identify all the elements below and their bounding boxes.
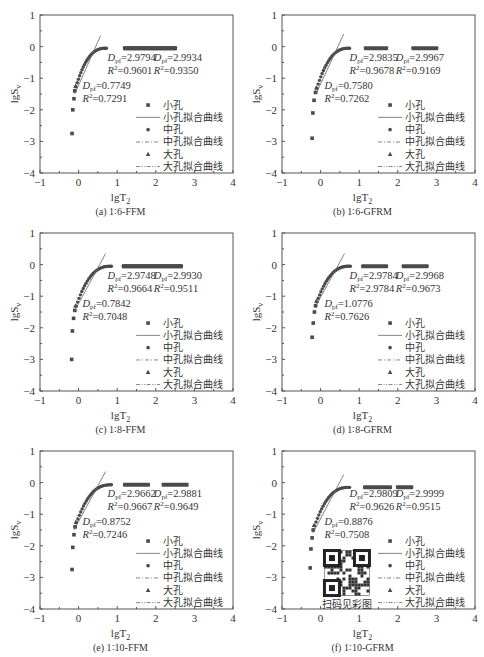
small-pore-marker <box>71 329 75 333</box>
legend-label: 小孔 <box>163 100 183 111</box>
panel-caption: (e) 1∶10-FFM <box>93 642 148 654</box>
small-pore-marker <box>72 533 76 537</box>
legend-label: 小孔拟合曲线 <box>163 111 223 123</box>
legend-circle-icon <box>146 564 150 568</box>
legend-square-icon <box>146 321 150 325</box>
x-tick-label: 0 <box>318 612 324 624</box>
legend-label: 中孔 <box>163 341 183 353</box>
legend-label: 大孔拟合曲线 <box>163 596 223 608</box>
legend-label: 小孔 <box>405 100 425 111</box>
medium-pore-marker <box>79 293 82 296</box>
medium-pore-marker <box>110 264 113 267</box>
medium-pore-plateau <box>364 46 388 50</box>
legend-label: 中孔拟合曲线 <box>405 353 465 365</box>
y-tick-label: −3 <box>265 353 277 365</box>
legend-triangle-icon <box>146 588 151 592</box>
legend-label: 中孔拟合曲线 <box>163 353 223 365</box>
x-tick-label: 2 <box>153 612 159 624</box>
x-tick-label: 1 <box>114 394 120 406</box>
medium-pore-marker <box>348 46 351 49</box>
small-pore-marker <box>71 108 75 112</box>
x-tick-label: 0 <box>76 394 82 406</box>
legend-label: 大孔 <box>405 366 425 378</box>
x-tick-label: 0 <box>76 176 82 188</box>
medium-pore-marker <box>75 81 78 84</box>
legend-circle-icon <box>146 346 150 350</box>
legend-label: 中孔拟合曲线 <box>405 571 465 583</box>
x-tick-label: 0 <box>76 612 82 624</box>
x-tick-label: 4 <box>472 394 478 406</box>
legend-label: 小孔拟合曲线 <box>405 111 465 123</box>
legend-label: 中孔 <box>163 559 183 571</box>
large-pore-plateau <box>123 46 177 50</box>
large-pore-annotation-r2: R2=0.9511 <box>153 282 198 294</box>
medium-pore-marker <box>349 264 352 267</box>
legend-label: 小孔拟合曲线 <box>405 547 465 559</box>
x-tick-label: 4 <box>230 612 236 624</box>
y-tick-label: 1 <box>272 9 278 21</box>
y-tick-label: −2 <box>23 322 35 334</box>
plot-frame <box>40 15 233 173</box>
small-pore-marker <box>70 132 74 136</box>
medium-pore-marker <box>77 297 80 300</box>
large-pore-plateau <box>402 264 429 268</box>
small-pore-marker <box>311 321 315 325</box>
y-tick-label: −4 <box>23 603 35 615</box>
x-tick-label: 4 <box>472 176 478 188</box>
x-axis-label: lgT2 <box>111 409 130 424</box>
x-tick-label: 4 <box>230 176 236 188</box>
small-pore-annotation-r2: R2=0.7291 <box>81 92 127 104</box>
x-tick-label: 2 <box>153 394 159 406</box>
medium-pore-annotation-r2: R2=0.9667 <box>107 500 153 512</box>
legend-label: 小孔拟合曲线 <box>163 547 223 559</box>
x-axis-label: lgT2 <box>111 627 130 642</box>
small-pore-marker <box>312 99 316 103</box>
y-tick-label: −2 <box>265 322 277 334</box>
plot-frame <box>282 233 475 391</box>
legend-square-icon <box>388 321 392 325</box>
y-tick-label: −3 <box>265 571 277 583</box>
x-tick-label: 3 <box>192 612 198 624</box>
x-tick-label: 3 <box>192 394 198 406</box>
legend-label: 大孔拟合曲线 <box>405 596 465 608</box>
medium-pore-marker <box>79 510 82 513</box>
medium-pore-marker <box>316 82 319 85</box>
medium-pore-annotation-r2: R2=0.9626 <box>349 500 395 512</box>
chart-svg: −10123410−1−2−3−4lgT2lgSv(f) 1∶10-GFRMDp… <box>242 436 484 655</box>
x-tick-label: 2 <box>395 176 401 188</box>
qr-code[interactable] <box>324 551 369 596</box>
legend-triangle-icon <box>388 370 393 374</box>
x-tick-label: 2 <box>153 176 159 188</box>
medium-pore-marker <box>318 79 321 82</box>
x-tick-label: 1 <box>114 176 120 188</box>
y-tick-label: −4 <box>265 603 277 615</box>
y-tick-label: −1 <box>265 72 277 84</box>
y-axis-label: lgSv <box>250 85 265 104</box>
panel-caption: (d) 1∶8-GFRM <box>333 424 392 436</box>
x-tick-label: 0 <box>318 394 324 406</box>
y-tick-label: −4 <box>23 167 35 179</box>
x-axis-label: lgT2 <box>111 191 130 206</box>
medium-pore-marker <box>77 77 80 80</box>
legend-label: 大孔拟合曲线 <box>405 378 465 390</box>
x-tick-label: −1 <box>34 176 46 188</box>
y-tick-label: −2 <box>265 540 277 552</box>
plot-frame <box>40 233 233 391</box>
y-tick-label: −1 <box>23 290 35 302</box>
x-tick-label: 1 <box>114 612 120 624</box>
small-pore-marker <box>310 536 314 540</box>
large-pore-annotation-r2: R2=0.9169 <box>395 64 441 76</box>
y-axis-label: lgSv <box>250 303 265 322</box>
small-pore-marker <box>72 97 76 101</box>
medium-pore-marker <box>110 483 113 486</box>
legend-square-icon <box>146 103 150 107</box>
panel-caption: (b) 1∶6-GFRM <box>333 206 392 218</box>
plot-frame <box>282 15 475 173</box>
y-tick-label: −1 <box>265 290 277 302</box>
legend-label: 小孔 <box>163 536 183 547</box>
large-pore-plateau <box>411 46 438 50</box>
medium-pore-plateau <box>361 264 388 268</box>
legend-label: 中孔 <box>163 123 183 135</box>
y-tick-label: −2 <box>23 104 35 116</box>
small-pore-marker <box>70 358 74 362</box>
